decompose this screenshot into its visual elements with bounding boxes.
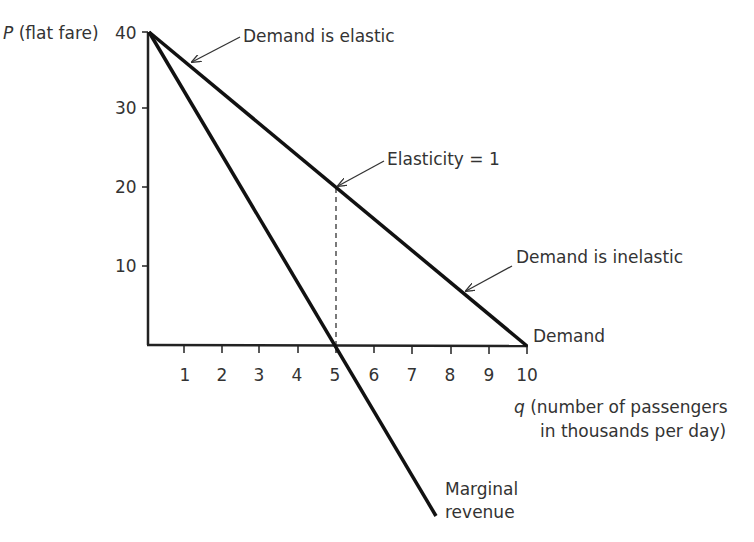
- svg-text:3: 3: [254, 365, 265, 385]
- unit-elastic-arrow: [338, 161, 384, 186]
- chart-canvas: 40 30 20 10 1 2 3 4 5 6 7 8 9 10 P (flat…: [0, 0, 754, 542]
- svg-text:9: 9: [484, 365, 495, 385]
- y-tick-20: 20: [115, 177, 137, 197]
- svg-text:1: 1: [180, 365, 191, 385]
- svg-text:2: 2: [217, 365, 228, 385]
- mr-label-line1: Marginal: [445, 479, 518, 499]
- inelastic-annotation: Demand is inelastic: [516, 247, 683, 267]
- svg-text:5: 5: [330, 365, 341, 385]
- y-axis-label: P (flat fare): [3, 23, 99, 43]
- svg-text:7: 7: [407, 365, 418, 385]
- mr-label-line2: revenue: [445, 502, 515, 522]
- elastic-arrow: [192, 37, 240, 62]
- inelastic-arrow: [466, 266, 512, 291]
- x-axis-label-line1: q (number of passengers: [514, 397, 728, 417]
- x-axis-label-line2: in thousands per day): [540, 421, 726, 441]
- y-tick-30: 30: [115, 98, 137, 118]
- svg-text:8: 8: [445, 365, 456, 385]
- x-axis: [147, 345, 528, 346]
- svg-text:4: 4: [292, 365, 303, 385]
- demand-line: [149, 32, 527, 346]
- y-tick-40: 40: [115, 23, 137, 43]
- unit-elastic-annotation: Elasticity = 1: [387, 149, 500, 169]
- demand-label: Demand: [533, 326, 605, 346]
- svg-text:10: 10: [516, 365, 538, 385]
- svg-text:6: 6: [369, 365, 380, 385]
- elastic-annotation: Demand is elastic: [243, 26, 395, 46]
- y-tick-10: 10: [115, 256, 137, 276]
- x-tick-labels: 1 2 3 4 5 6 7 8 9 10: [180, 365, 538, 385]
- marginal-revenue-line: [149, 32, 436, 516]
